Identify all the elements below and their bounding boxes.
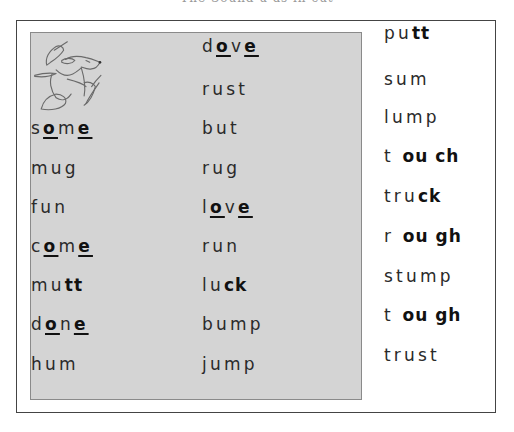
word-segment-underlined: e [74,314,89,334]
word-segment: d [202,36,216,56]
word-segment: r [384,226,403,246]
word-segment-bold: ou gh [402,305,461,325]
word-segment: hum [31,354,79,374]
word-segment: rug [202,158,240,178]
word-right-7: stump [384,266,454,286]
word-left-4: come [31,236,93,256]
word-left-3: fun [31,197,68,217]
word-middle-5: love [202,197,253,217]
word-middle-9: jump [202,354,258,374]
word-segment-underlined: e [238,197,253,217]
word-segment: s [31,118,43,138]
word-right-9: trust [384,345,440,365]
word-segment-bold: ou ch [402,146,459,166]
word-segment: trust [384,345,440,365]
word-middle-6: run [202,236,240,256]
word-segment: m [58,118,78,138]
word-left-5: mutt [31,275,83,295]
word-segment: t [384,305,402,325]
word-segment-bold: ck [418,186,441,206]
word-right-1: putt [384,23,430,43]
word-segment: v [225,197,238,217]
word-right-6: r ou gh [384,226,462,246]
word-segment-underlined: o [210,197,225,217]
word-segment: c [31,236,44,256]
word-middle-7: luck [202,275,247,295]
page-title: The Sound u as in cut [0,0,514,5]
word-right-3: lump [384,107,440,127]
word-segment: l [202,197,210,217]
word-right-5: truck [384,186,441,206]
word-segment: stump [384,266,454,286]
word-segment: d [31,314,45,334]
word-left-2: mug [31,158,79,178]
word-middle-1: dove [202,36,259,56]
word-middle-2: rust [202,79,248,99]
word-segment: bump [202,314,264,334]
word-segment: rust [202,79,248,99]
word-segment: m [58,236,78,256]
word-segment-bold: ou gh [403,226,462,246]
word-right-4: t ou ch [384,146,459,166]
word-segment: run [202,236,240,256]
word-segment: sum [384,69,430,89]
word-middle-8: bump [202,314,264,334]
word-segment-underlined: o [44,236,59,256]
word-right-8: t ou gh [384,305,461,325]
word-segment-underlined: e [78,236,93,256]
word-segment: lump [384,107,440,127]
word-segment: jump [202,354,258,374]
word-segment: mu [31,275,65,295]
word-segment: t [384,146,402,166]
word-segment: fun [31,197,68,217]
word-segment: tru [384,186,418,206]
word-segment-underlined: o [43,118,58,138]
word-segment: but [202,118,240,138]
word-left-1: some [31,118,92,138]
word-left-6: done [31,314,89,334]
word-left-7: hum [31,354,79,374]
word-middle-4: rug [202,158,240,178]
word-segment: lu [202,275,224,295]
word-segment-underlined: o [45,314,60,334]
word-right-2: sum [384,69,430,89]
word-segment: n [60,314,74,334]
word-segment-bold: ck [224,275,247,295]
word-segment-underlined: e [78,118,93,138]
word-segment: mug [31,158,79,178]
word-segment-bold: tt [65,275,83,295]
word-segment: v [231,36,244,56]
word-segment-underlined: e [244,36,259,56]
word-segment-bold: tt [412,23,430,43]
word-middle-3: but [202,118,240,138]
word-segment-underlined: o [216,36,231,56]
dog-illustration-icon [30,33,114,115]
word-segment: pu [384,23,412,43]
